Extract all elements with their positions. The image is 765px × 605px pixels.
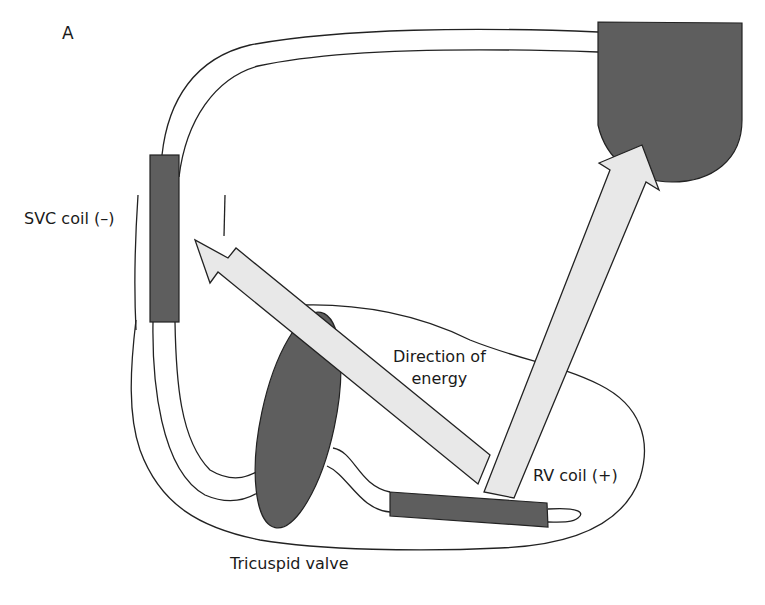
diagram-canvas [0, 0, 765, 605]
direction-label-line1: Direction of [393, 346, 486, 368]
svc-coil [150, 155, 179, 322]
direction-of-energy-label: Direction of energy [393, 346, 486, 389]
lead-tip-loop [548, 509, 581, 522]
lead-outer [162, 29, 598, 155]
rv-coil [390, 492, 548, 527]
energy-arrow-to-can [484, 145, 659, 498]
defibrillation-vector-diagram: A SVC coil (–) Direction of energy RV co… [0, 0, 765, 605]
svc-vessel-wall-right [224, 195, 225, 236]
svc-vessel-wall-left [135, 195, 138, 330]
lead-lower-inner [175, 322, 262, 478]
lead-lower-outer [153, 322, 262, 501]
panel-label: A [62, 25, 74, 42]
svc-coil-label: SVC coil (–) [24, 211, 114, 227]
direction-label-line2: energy [393, 368, 486, 390]
lead-inner [179, 50, 598, 177]
lead-rv-upper [333, 448, 390, 492]
rv-coil-label: RV coil (+) [533, 468, 618, 484]
tricuspid-valve-label: Tricuspid valve [230, 556, 349, 572]
